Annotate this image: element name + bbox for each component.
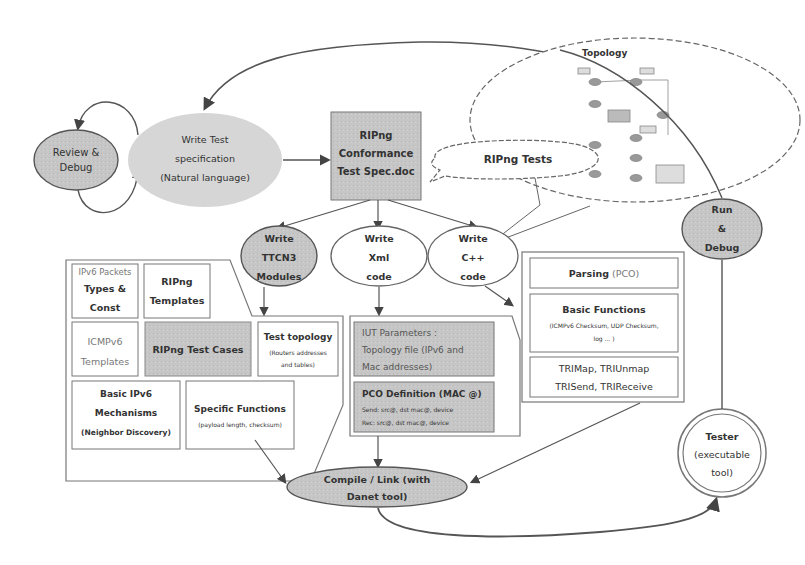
- ipv6-packets-line2: Const: [90, 302, 121, 313]
- pco-def-send: Send: src@, dst mac@, device: [362, 406, 453, 414]
- ripng-tests-label: RIPng Tests: [484, 153, 553, 165]
- write-spec-label-1: Write Test: [182, 134, 229, 145]
- ttcn3-label-1: Write: [264, 233, 293, 244]
- parsing-label: Parsing (PCO): [569, 268, 640, 279]
- write-spec-label-3: (Natural language): [160, 172, 250, 183]
- conformance-label-2: Conformance: [339, 148, 414, 159]
- ripng-templates-line1: RIPng: [161, 276, 192, 287]
- ttcn3-label-3: Modules: [257, 271, 302, 282]
- iut-params-line3: Mac addresses): [362, 362, 432, 372]
- tester-label-2: (executable: [694, 449, 750, 460]
- icmpv6-line2: Templates: [80, 356, 129, 367]
- review-loop-top: [78, 102, 138, 135]
- review-debug-label-1: Review &: [53, 147, 100, 158]
- tester-label-1: Tester: [706, 431, 739, 442]
- ipv6-packets-top: IPv6 Packets: [78, 267, 132, 277]
- conformance-label-3: Test Spec.doc: [337, 166, 414, 177]
- conformance-label-1: RIPng: [359, 130, 392, 141]
- arrow-doc-to-ttcn3: [278, 200, 370, 228]
- ripng-templates-line2: Templates: [150, 295, 205, 306]
- xml-label-3: code: [366, 271, 391, 282]
- topology-title: Topology: [582, 48, 627, 58]
- run-debug-label-1: Run: [712, 204, 733, 215]
- pco-def-rec: Rec: src@, dst mac@, device: [362, 419, 449, 427]
- basic-functions-title: Basic Functions: [562, 304, 646, 315]
- cpp-label-1: Write: [458, 233, 487, 244]
- specific-functions-sub: (payload length, checksum): [198, 421, 282, 429]
- icmpv6-templates-box[interactable]: [72, 322, 138, 376]
- diagram-svg: Topology: [0, 0, 805, 565]
- icmpv6-line1: ICMPv6: [87, 336, 122, 347]
- ripng-templates-box[interactable]: [144, 264, 210, 318]
- ttcn3-label-2: TTCN3: [262, 252, 297, 263]
- test-topology-sub1: (Routers addresses: [269, 349, 327, 356]
- tri-line2: TRISend, TRIReceive: [554, 381, 653, 392]
- xml-label-1: Write: [364, 233, 393, 244]
- test-topology-title: Test topology: [264, 332, 333, 342]
- arrow-doc-to-cpp: [388, 200, 476, 227]
- ipv6-packets-line1: Types &: [84, 283, 126, 294]
- basic-ipv6-line3: (Neighbor Discovery): [81, 428, 171, 437]
- arrow-cpp-to-group: [485, 286, 512, 305]
- write-spec-label-2: specification: [175, 153, 235, 164]
- specific-functions-box[interactable]: [186, 381, 294, 449]
- test-topology-sub2: and tables): [281, 361, 315, 368]
- run-debug-label-2: &: [718, 223, 726, 234]
- basic-ipv6-line2: Mechanisms: [95, 408, 157, 418]
- compile-label-1: Compile / Link (with: [324, 474, 431, 485]
- workflow-diagram: Topology: [0, 0, 805, 565]
- xml-label-2: Xml: [369, 252, 389, 263]
- basic-functions-sub1: (ICMPv6 Checksum, UDP Checksum,: [549, 322, 658, 329]
- review-debug-node[interactable]: [34, 130, 118, 190]
- basic-functions-sub2: log ... ): [593, 335, 614, 343]
- iut-params-line2: Topology file (IPv6 and: [361, 345, 464, 355]
- cpp-label-3: code: [460, 271, 485, 282]
- arrow-compile-to-tester: [378, 500, 716, 536]
- iut-params-line1: IUT Parameters :: [362, 328, 437, 338]
- specific-functions-title: Specific Functions: [194, 404, 286, 414]
- run-debug-label-3: Debug: [705, 242, 740, 253]
- compile-label-2: Danet tool): [347, 491, 408, 502]
- review-debug-label-2: Debug: [60, 162, 93, 173]
- pco-def-title: PCO Definition (MAC @): [362, 389, 482, 399]
- ripng-test-cases-label: RIPng Test Cases: [153, 344, 244, 355]
- basic-ipv6-line1: Basic IPv6: [100, 389, 152, 399]
- tri-line1: TRIMap, TRIUnmap: [558, 363, 650, 374]
- tester-label-3: tool): [711, 467, 733, 478]
- cpp-label-2: C++: [462, 252, 485, 263]
